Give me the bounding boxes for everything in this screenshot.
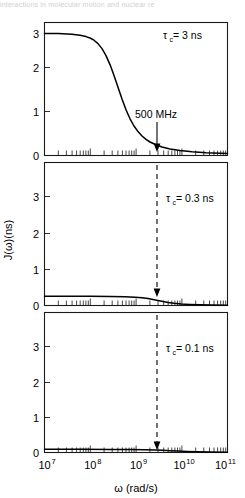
panel1-ytick-3: 3	[33, 28, 39, 40]
xtick-1e10: 10 10	[173, 457, 194, 471]
panel3-tau-label: τ c = 0.1 ns	[166, 342, 214, 356]
cut-off-caption: interactions in molecular motion and nuc…	[0, 0, 245, 9]
panel3-ytick-0: 0	[33, 447, 39, 459]
panel1-500mhz-label: 500 MHz	[135, 108, 177, 120]
xtick-1e8: 10 8	[84, 457, 101, 471]
xtick-1e7: 10 7	[38, 457, 55, 471]
panel1-y-ticks	[45, 34, 51, 156]
figure-svg: 3 2 1 0	[0, 0, 245, 498]
spectral-density-figure: interactions in molecular motion and nuc…	[0, 0, 245, 498]
panel2-ytick-2: 2	[33, 228, 39, 240]
svg-text:9: 9	[143, 457, 147, 466]
svg-text:10: 10	[130, 459, 142, 471]
panel3-marker	[154, 315, 161, 450]
panel2-ytick-0: 0	[33, 300, 39, 312]
panel-tau-0-1ns: 3 2 1 0	[33, 313, 228, 459]
panel-tau-3ns: 3 2 1 0	[33, 23, 228, 162]
svg-text:8: 8	[97, 457, 101, 466]
panel1-tau-symbol: τ	[163, 29, 168, 41]
panel2-ytick-3: 3	[33, 191, 39, 203]
panel1-tau-value: = 3 ns	[173, 29, 202, 41]
panel3-ytick-2: 2	[33, 377, 39, 389]
svg-text:10: 10	[215, 459, 227, 471]
panel1-ytick-2: 2	[33, 62, 39, 74]
panel3-frame	[45, 313, 228, 453]
panel-tau-0-3ns: 3 2 1 0	[33, 163, 228, 312]
panel3-tau-symbol: τ	[166, 342, 171, 354]
svg-text:10: 10	[186, 457, 194, 466]
panel2-ytick-1: 1	[33, 264, 39, 276]
panel3-tau-value: = 0.1 ns	[176, 342, 214, 354]
panel1-frame	[45, 23, 228, 156]
panel2-tau-value: = 0.3 ns	[176, 192, 214, 204]
panel3-ytick-1: 1	[33, 412, 39, 424]
panel1-tau-label: τ c = 3 ns	[163, 29, 202, 43]
panel2-tau-symbol: τ	[166, 192, 171, 204]
svg-text:10: 10	[84, 459, 96, 471]
xtick-1e11: 10 11	[215, 457, 236, 471]
panel1-curve	[45, 34, 228, 154]
panel1-500mhz-arrow	[154, 122, 161, 152]
x-axis-tick-labels: 10 7 10 8 10 9 10 10 10 11	[38, 457, 236, 471]
x-axis-title: ω (rad/s)	[114, 482, 157, 494]
xtick-1e9: 10 9	[130, 457, 147, 471]
svg-text:10: 10	[38, 459, 50, 471]
panel1-ytick-0: 0	[33, 150, 39, 162]
panel2-marker	[154, 165, 161, 297]
panel3-ytick-3: 3	[33, 341, 39, 353]
panel2-y-ticks	[45, 197, 51, 306]
svg-text:11: 11	[228, 457, 236, 466]
panel2-frame	[45, 163, 228, 306]
y-axis-title: J(ω)(ns)	[2, 220, 14, 260]
panel3-y-ticks	[45, 347, 51, 453]
panel2-tau-label: τ c = 0.3 ns	[166, 192, 214, 206]
panel1-ytick-1: 1	[33, 106, 39, 118]
svg-text:10: 10	[173, 459, 185, 471]
svg-text:7: 7	[51, 457, 55, 466]
